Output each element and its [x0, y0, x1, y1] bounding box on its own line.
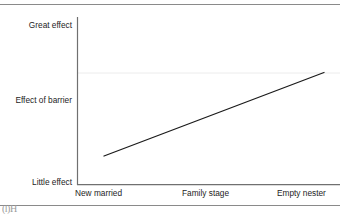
page-artifact-glyph: (l)H — [2, 203, 24, 214]
y-tick-label-great-effect: Great effect — [29, 20, 72, 30]
x-tick-label-new-married: New married — [75, 188, 122, 198]
x-tick-label-family-stage: Family stage — [182, 188, 229, 198]
series-line-effect-of-barrier — [104, 73, 324, 157]
y-tick-label-effect-of-barrier: Effect of barrier — [15, 95, 72, 105]
figure-container: Great effect Effect of barrier Little ef… — [0, 0, 340, 216]
y-tick-label-little-effect: Little effect — [32, 177, 72, 187]
bottom-page-rule — [0, 205, 340, 206]
x-tick-label-empty-nester: Empty nester — [277, 188, 326, 198]
